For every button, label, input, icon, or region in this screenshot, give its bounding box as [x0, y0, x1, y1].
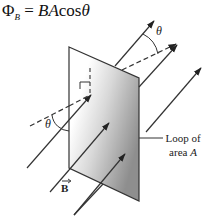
field-arrow-top: [115, 21, 154, 66]
magnetic-flux-diagram: ΦB = BAcosθ: [0, 0, 206, 216]
loop-label: Loop of area A: [160, 131, 206, 159]
diagram-graphics: [0, 0, 206, 216]
field-arrow-right-edge: [139, 45, 177, 87]
field-arrow-lower-2-under: [74, 184, 103, 215]
field-arrow-far-right: [146, 68, 201, 132]
loop-plate: [69, 47, 139, 201]
theta-label-left: θ: [45, 117, 51, 131]
loop-label-line1: Loop of: [160, 131, 206, 145]
theta-label-top: θ: [156, 24, 162, 38]
loop-label-line2: area A: [160, 145, 206, 159]
b-field-label: B: [61, 181, 68, 195]
